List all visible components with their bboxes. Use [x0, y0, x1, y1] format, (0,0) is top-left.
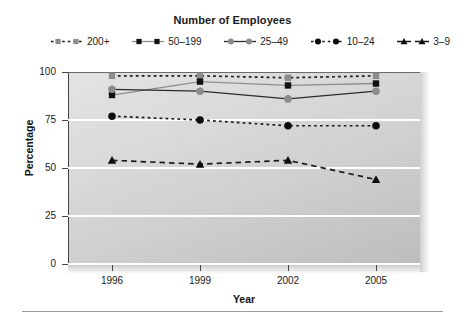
x-tick-mark [288, 265, 289, 271]
data-point [197, 73, 203, 79]
x-tick-label: 1996 [82, 275, 142, 286]
data-point [196, 116, 204, 124]
data-point [285, 75, 291, 81]
legend-item-label: 25–49 [260, 36, 288, 47]
legend-item-label: 3–9 [433, 36, 450, 47]
legend-item-label: 200+ [87, 36, 110, 47]
data-point [196, 87, 204, 95]
chart-legend: 200+50–19925–4910–243–9 [50, 33, 450, 49]
legend-item-10-24[interactable]: 10–24 [310, 36, 375, 47]
x-tick-mark [376, 265, 377, 271]
series-line [112, 82, 376, 95]
series-25-49 [108, 86, 380, 103]
chart-figure: Number of Employees 200+50–19925–4910–24… [0, 0, 465, 321]
y-tick-label: 25 [26, 210, 56, 221]
data-point [373, 80, 379, 86]
legend-marker-icon [310, 36, 344, 47]
legend-marker-icon [50, 36, 84, 47]
legend-item-label: 50–199 [168, 36, 201, 47]
x-tick-label: 2002 [258, 275, 318, 286]
y-tick-mark [62, 264, 68, 265]
x-tick-label: 2005 [346, 275, 406, 286]
legend-marker-icon [131, 36, 165, 47]
y-axis-title: Percentage [23, 93, 35, 203]
data-point [109, 73, 115, 79]
data-point [373, 73, 379, 79]
data-point [372, 87, 380, 95]
series-10-24 [108, 112, 380, 129]
legend-marker-icon [223, 36, 257, 47]
footer-divider [22, 311, 443, 312]
data-series-layer [68, 72, 420, 264]
y-tick-label: 0 [26, 258, 56, 269]
legend-item-3-9[interactable]: 3–9 [396, 36, 450, 47]
legend-item-label: 10–24 [347, 36, 375, 47]
plot-shadow-bottom [68, 264, 420, 274]
y-tick-label: 100 [26, 66, 56, 77]
series-line [112, 160, 376, 179]
data-point [372, 175, 381, 183]
data-point [108, 86, 116, 94]
data-point [284, 95, 292, 103]
series-line [112, 89, 376, 99]
legend-item-25-49[interactable]: 25–49 [223, 36, 288, 47]
series-canvas [68, 72, 420, 264]
legend-title: Number of Employees [0, 14, 465, 26]
data-point [108, 112, 116, 120]
data-point [197, 78, 203, 84]
data-point [285, 82, 291, 88]
series-line [112, 116, 376, 126]
series-200- [109, 73, 379, 81]
x-tick-mark [112, 265, 113, 271]
x-tick-label: 1999 [170, 275, 230, 286]
series-3-9 [108, 156, 381, 183]
plot-shadow-right [420, 72, 430, 272]
x-tick-mark [200, 265, 201, 271]
data-point [372, 122, 380, 130]
data-point [284, 122, 292, 130]
legend-item-200-[interactable]: 200+ [50, 36, 110, 47]
legend-marker-icon [396, 36, 430, 47]
series-line [112, 76, 376, 78]
legend-item-50-199[interactable]: 50–199 [131, 36, 201, 47]
x-axis-title: Year [68, 293, 420, 305]
